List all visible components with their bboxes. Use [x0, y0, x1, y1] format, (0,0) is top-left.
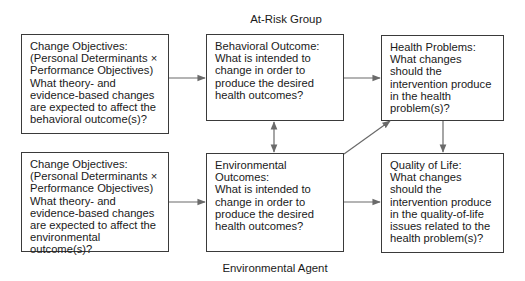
arrow-environmental-to-health: [344, 121, 390, 154]
connector-arrows: [0, 0, 525, 281]
